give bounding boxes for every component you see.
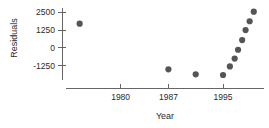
y-tick-label: 2500 [36, 8, 55, 17]
data-point [220, 72, 226, 78]
y-tick-label: 1250 [36, 26, 55, 35]
y-tick-label: -1250 [33, 61, 55, 70]
data-point [232, 56, 238, 62]
data-point [242, 27, 248, 33]
axis-layer [62, 8, 264, 88]
data-point [77, 21, 83, 27]
data-point [235, 47, 241, 53]
data-point [227, 63, 233, 69]
tick-marks-layer [58, 12, 223, 88]
x-tick-label: 1987 [159, 93, 178, 102]
y-tick-label: 0 [50, 44, 55, 53]
data-point [247, 18, 253, 24]
data-point [165, 66, 171, 72]
x-tick-label: 1995 [214, 93, 233, 102]
y-axis-title: Residuals [10, 18, 19, 58]
data-point [251, 9, 257, 15]
data-points-layer [77, 9, 257, 79]
x-axis-title: Year [156, 112, 174, 121]
x-tick-label: 1980 [111, 93, 130, 102]
data-point [239, 37, 245, 43]
data-point [193, 71, 199, 77]
residuals-scatter-chart: -1250012502500 198019871995 Residuals Ye… [0, 0, 269, 128]
